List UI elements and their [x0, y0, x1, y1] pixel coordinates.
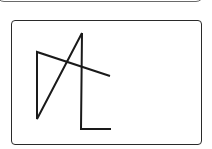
line-drawing [0, 0, 212, 149]
left-triangle-stroke [37, 33, 110, 119]
vertical-l-stroke [81, 33, 111, 129]
